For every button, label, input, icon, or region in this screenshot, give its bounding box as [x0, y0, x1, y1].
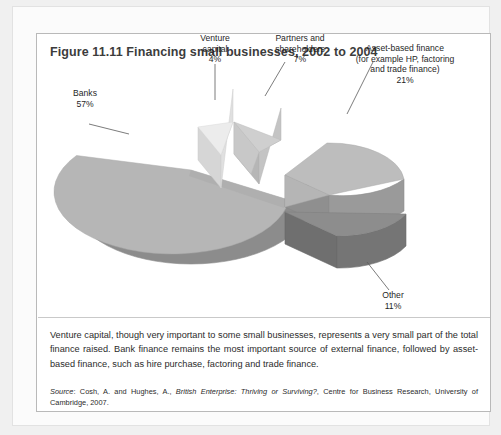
leader-line-other — [367, 262, 389, 290]
pie-chart: Banks 57% Venture capital 4% Partners an… — [37, 62, 490, 317]
pie-label-asset: Asset-based finance (for example HP, fac… — [339, 43, 471, 85]
pie-label-partners: Partners and shareholders 7% — [259, 33, 341, 65]
leader-line-partners — [265, 62, 285, 96]
figure-page: Figure 11.11 Financing small businesses,… — [0, 0, 501, 435]
pie-label-venture: Venture capital 4% — [183, 33, 247, 65]
source-label: Source — [50, 387, 73, 396]
source-authors: : Cosh, A. and Hughes, A., — [73, 387, 175, 396]
figure-mat: Figure 11.11 Financing small businesses,… — [12, 6, 490, 426]
leader-line-banks — [89, 124, 129, 134]
pie-label-other: Other 11% — [365, 290, 421, 311]
figure-source-line: Source: Cosh, A. and Hughes, A., British… — [50, 386, 478, 408]
panel-divider — [38, 317, 490, 318]
source-title: British Enterprise: Thriving or Survivin… — [176, 387, 317, 396]
pie-label-banks: Banks 57% — [49, 88, 121, 109]
figure-panel: Figure 11.11 Financing small businesses,… — [36, 33, 491, 412]
figure-caption-text: Venture capital, though very important t… — [50, 328, 478, 371]
